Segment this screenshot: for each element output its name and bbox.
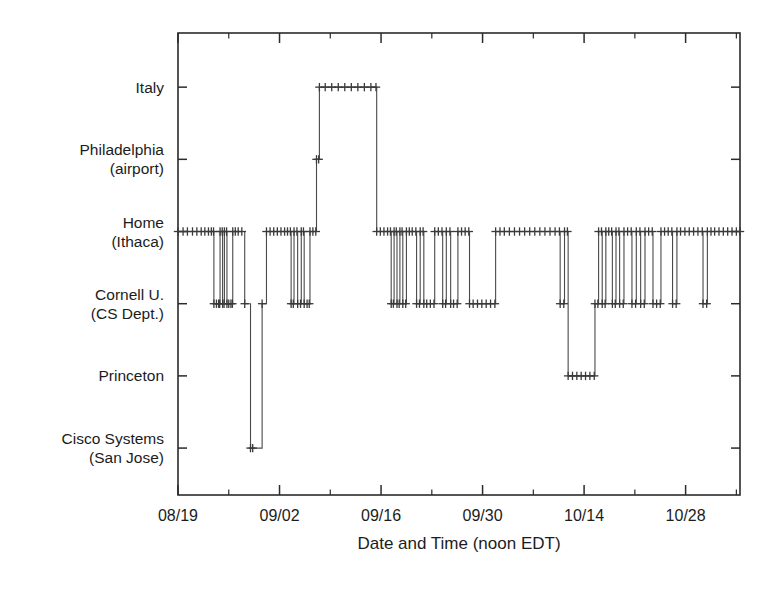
y-axis-tick-label: Princeton (99, 367, 164, 384)
y-axis-tick-label: (CS Dept.) (91, 305, 164, 322)
data-markers-group (174, 83, 744, 452)
chart-container: ItalyPhiladelphia(airport)Home(Ithaca)Co… (0, 0, 780, 594)
y-axis-tick-label: (airport) (110, 160, 164, 177)
x-axis-tick-label: 08/19 (158, 507, 198, 524)
y-axis-tick-label: Cisco Systems (62, 430, 165, 447)
series-line (178, 87, 740, 448)
x-axis-tick-label: 10/28 (666, 507, 706, 524)
scan-artifact (0, 556, 780, 590)
y-axis-labels: ItalyPhiladelphia(airport)Home(Ithaca)Co… (62, 79, 165, 466)
y-axis-tick-label: Home (123, 214, 164, 231)
y-axis-tick-label: Italy (136, 79, 165, 96)
x-axis-tick-label: 09/16 (361, 507, 401, 524)
x-axis-tick-label: 09/02 (259, 507, 299, 524)
y-axis-tick-label: (San Jose) (89, 449, 164, 466)
location-timeline-chart: ItalyPhiladelphia(airport)Home(Ithaca)Co… (0, 0, 780, 594)
y-axis-tick-label: Cornell U. (95, 286, 164, 303)
x-axis-title: Date and Time (noon EDT) (357, 534, 560, 553)
x-axis-tick-label: 09/30 (463, 507, 503, 524)
x-axis-labels: 08/1909/0209/1609/3010/1410/28 (158, 507, 706, 524)
y-axis-tick-label: Philadelphia (80, 141, 165, 158)
data-series-group (178, 87, 740, 448)
y-axis-tick-label: (Ithaca) (111, 233, 164, 250)
x-axis-tick-label: 10/14 (564, 507, 604, 524)
